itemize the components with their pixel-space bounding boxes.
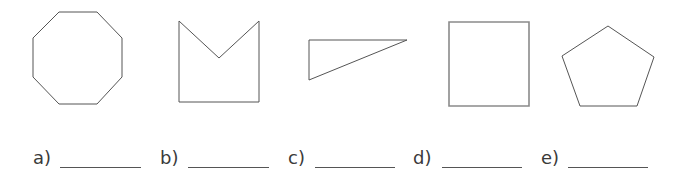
shape-c-right-triangle (309, 40, 407, 80)
answer-blank-a[interactable] (60, 167, 141, 168)
answer-blank-e[interactable] (568, 167, 648, 168)
shape-a-octagon (33, 12, 122, 104)
shape-d-square (449, 22, 529, 106)
answer-label-b: b) (160, 149, 178, 167)
answer-blank-d[interactable] (442, 167, 522, 168)
shape-e-pentagon (562, 26, 654, 106)
answer-label-e: e) (541, 149, 559, 167)
answer-label-d: d) (413, 149, 431, 167)
answer-blank-c[interactable] (315, 167, 395, 168)
answer-label-c: c) (288, 149, 305, 167)
shapes-canvas (0, 0, 683, 183)
shape-b-concave-pentagon (179, 21, 259, 102)
answer-blank-b[interactable] (188, 167, 269, 168)
answer-label-a: a) (33, 149, 51, 167)
